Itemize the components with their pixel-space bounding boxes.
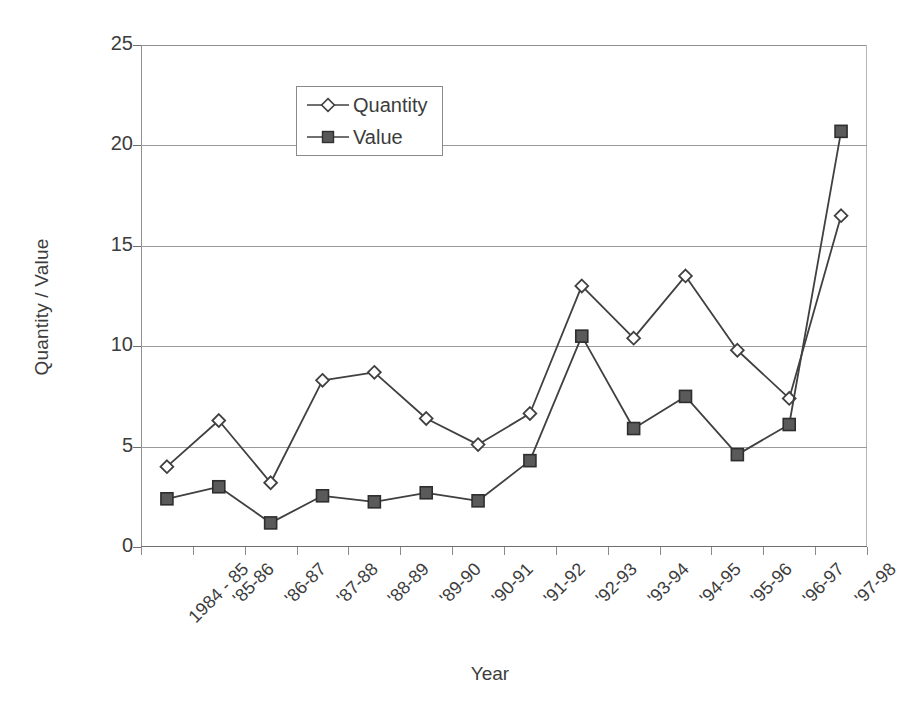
x-tick-mark xyxy=(867,547,868,555)
x-tick-mark xyxy=(400,547,401,555)
x-tick-label: '92-93 xyxy=(591,559,641,609)
x-tick-mark xyxy=(141,547,142,555)
x-tick-label: '88-89 xyxy=(384,559,434,609)
x-tick-label-text: '87-88 xyxy=(332,559,382,609)
data-point-filled-square xyxy=(680,390,692,402)
series-value xyxy=(161,125,847,529)
x-tick-label: '95-96 xyxy=(747,559,797,609)
y-tick-label: 0 xyxy=(81,534,133,557)
x-tick-label: '91-92 xyxy=(540,559,590,609)
data-point-open-diamond xyxy=(316,374,329,387)
legend-marker-open-diamond-icon xyxy=(305,95,351,115)
legend: Quantity Value xyxy=(296,86,443,156)
legend-label-quantity: Quantity xyxy=(353,94,427,117)
x-tick-label-text: '95-96 xyxy=(747,559,797,609)
x-tick-label-text: '92-93 xyxy=(591,559,641,609)
x-axis-title: Year xyxy=(400,663,580,685)
x-tick-mark xyxy=(193,547,194,555)
x-tick-mark xyxy=(348,547,349,555)
x-tick-mark xyxy=(711,547,712,555)
x-tick-mark xyxy=(245,547,246,555)
x-tick-label-text: '96-97 xyxy=(799,559,849,609)
legend-label-value: Value xyxy=(353,126,403,149)
x-tick-label-text: '89-90 xyxy=(436,559,486,609)
y-tick-label: 5 xyxy=(81,434,133,457)
series-quantity xyxy=(161,209,848,489)
data-point-filled-square xyxy=(472,495,484,507)
x-tick-label-text: '86-87 xyxy=(280,559,330,609)
data-point-filled-square xyxy=(783,419,795,431)
data-point-filled-square xyxy=(628,423,640,435)
y-tick-label: 25 xyxy=(81,32,133,55)
x-tick-mark xyxy=(504,547,505,555)
x-tick-mark xyxy=(297,547,298,555)
x-tick-label: '89-90 xyxy=(436,559,486,609)
x-tick-label: '97-98 xyxy=(851,559,901,609)
x-tick-label-text: '90-91 xyxy=(488,559,538,609)
x-tick-label: '86-87 xyxy=(280,559,330,609)
x-tick-label: '94-95 xyxy=(695,559,745,609)
x-tick-label: '90-91 xyxy=(488,559,538,609)
x-tick-label-text: '93-94 xyxy=(643,559,693,609)
y-tick-label: 20 xyxy=(81,132,133,155)
y-tick-label: 15 xyxy=(81,233,133,256)
x-tick-mark xyxy=(763,547,764,555)
x-tick-label: '96-97 xyxy=(799,559,849,609)
data-point-open-diamond xyxy=(472,438,485,451)
data-point-filled-square xyxy=(524,455,536,467)
x-tick-mark xyxy=(815,547,816,555)
data-point-filled-square xyxy=(265,517,277,529)
data-point-filled-square xyxy=(161,493,173,505)
legend-item-quantity: Quantity xyxy=(305,90,427,120)
y-axis-ticks: 0510152025 xyxy=(70,45,133,547)
x-tick-label-text: '94-95 xyxy=(695,559,745,609)
x-tick-label-text: '97-98 xyxy=(851,559,901,609)
data-series-layer xyxy=(141,45,867,547)
data-point-filled-square xyxy=(835,125,847,137)
x-tick-mark xyxy=(660,547,661,555)
legend-item-value: Value xyxy=(305,122,403,152)
data-point-filled-square xyxy=(368,496,380,508)
y-tick-label: 10 xyxy=(81,333,133,356)
line-chart: Quantity / Value 0510152025 1984 - 85'85… xyxy=(0,0,902,725)
data-point-filled-square xyxy=(420,487,432,499)
data-point-filled-square xyxy=(576,330,588,342)
data-point-filled-square xyxy=(731,449,743,461)
data-point-filled-square xyxy=(213,481,225,493)
x-tick-mark xyxy=(608,547,609,555)
x-tick-mark xyxy=(452,547,453,555)
data-point-filled-square xyxy=(317,490,329,502)
y-axis-title: Quantity / Value xyxy=(31,197,53,417)
x-tick-label-text: '91-92 xyxy=(540,559,590,609)
series-line xyxy=(167,131,841,523)
x-tick-label: '93-94 xyxy=(643,559,693,609)
x-tick-label-text: '88-89 xyxy=(384,559,434,609)
data-point-open-diamond xyxy=(524,407,537,420)
x-tick-label: '87-88 xyxy=(332,559,382,609)
data-point-open-diamond xyxy=(835,209,848,222)
legend-marker-filled-square-icon xyxy=(305,127,351,147)
x-tick-mark xyxy=(556,547,557,555)
